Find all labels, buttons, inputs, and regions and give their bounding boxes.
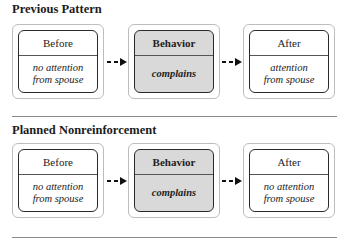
before-box-inner: Before no attention from spouse (18, 149, 98, 212)
behavior-box: Behavior complains (128, 143, 220, 218)
behavior-box-inner: Behavior complains (134, 30, 214, 93)
before-box-inner: Before no attention from spouse (18, 30, 98, 93)
box-header: Before (19, 150, 97, 175)
box-header: Behavior (135, 31, 213, 56)
after-box: After attention from spouse (243, 24, 335, 99)
section-title-previous-pattern: Previous Pattern (12, 2, 102, 17)
box-content: no attention from spouse (19, 175, 97, 211)
after-box: After no attention from spouse (243, 143, 335, 218)
section-title-planned-nonreinforcement: Planned Nonreinforcement (12, 123, 156, 138)
dashed-arrow-right-icon (107, 57, 127, 67)
box-header: After (250, 150, 328, 175)
behavior-box-inner: Behavior complains (134, 149, 214, 212)
behavior-box: Behavior complains (128, 24, 220, 99)
before-box: Before no attention from spouse (12, 143, 104, 218)
box-header: After (250, 31, 328, 56)
box-header: Before (19, 31, 97, 56)
box-content: complains (135, 56, 213, 92)
box-content: complains (135, 175, 213, 211)
section-divider (12, 116, 337, 117)
box-content: no attention from spouse (250, 175, 328, 211)
box-content: no attention from spouse (19, 56, 97, 92)
after-box-inner: After attention from spouse (249, 30, 329, 93)
before-box: Before no attention from spouse (12, 24, 104, 99)
box-header: Behavior (135, 150, 213, 175)
dashed-arrow-right-icon (107, 176, 127, 186)
dashed-arrow-right-icon (222, 57, 242, 67)
after-box-inner: After no attention from spouse (249, 149, 329, 212)
bottom-divider (12, 237, 337, 238)
dashed-arrow-right-icon (222, 176, 242, 186)
box-content: attention from spouse (250, 56, 328, 92)
